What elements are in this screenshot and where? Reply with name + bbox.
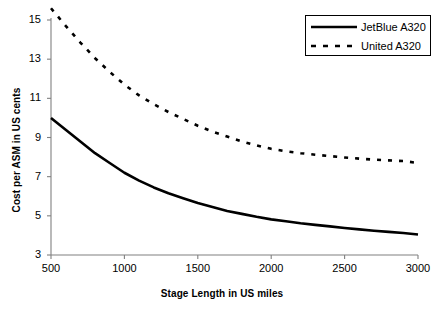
legend-dashed-line-icon [310, 40, 358, 52]
y-tick-label: 3 [15, 249, 41, 260]
x-tick-label: 3000 [396, 263, 440, 274]
series-line-jetblue-a320 [51, 118, 418, 235]
y-axis-title: Cost per ASM in US cents [11, 88, 22, 213]
y-tick-label: 15 [15, 14, 41, 25]
x-tick-label: 500 [29, 263, 73, 274]
legend-label-united: United A320 [361, 40, 421, 52]
legend-item-united: United A320 [306, 36, 430, 55]
chart-legend: JetBlue A320 United A320 [305, 15, 431, 56]
legend-item-jetblue: JetBlue A320 [306, 17, 430, 36]
legend-solid-line-icon [310, 21, 358, 33]
x-tick-label: 1500 [176, 263, 220, 274]
legend-label-jetblue: JetBlue A320 [361, 21, 426, 33]
y-axis-title-container: Cost per ASM in US cents [8, 60, 24, 240]
x-axis-title: Stage Length in US miles [0, 288, 444, 299]
x-tick-label: 2500 [323, 263, 367, 274]
x-tick-label: 1000 [102, 263, 146, 274]
chart-figure: 3579111315 50010001500200025003000 Cost … [0, 0, 444, 309]
x-tick-label: 2000 [249, 263, 293, 274]
